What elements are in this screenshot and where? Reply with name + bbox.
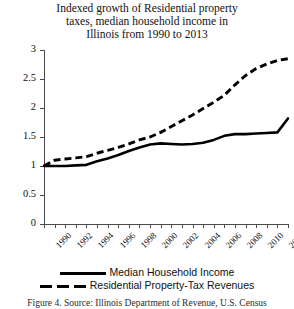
legend-label-median-household-income: Median Household Income — [110, 267, 235, 278]
legend-swatch-dashed-icon — [40, 281, 86, 291]
figure-caption: Figure 4. Source: Illinois Department of… — [0, 298, 294, 309]
series-residential-property-tax-revenues — [44, 59, 288, 166]
chart-legend: Median Household Income Residential Prop… — [0, 266, 294, 292]
legend-item-median-household-income: Median Household Income — [0, 266, 294, 279]
chart-figure: Indexed growth of Residential property t… — [0, 0, 294, 309]
legend-item-residential-property-tax-revenues: Residential Property-Tax Revenues — [0, 279, 294, 292]
legend-swatch-solid-icon — [60, 268, 106, 278]
series-median-household-income — [44, 118, 288, 166]
legend-label-residential-property-tax-revenues: Residential Property-Tax Revenues — [90, 280, 255, 291]
plot-series-layer — [0, 0, 294, 309]
